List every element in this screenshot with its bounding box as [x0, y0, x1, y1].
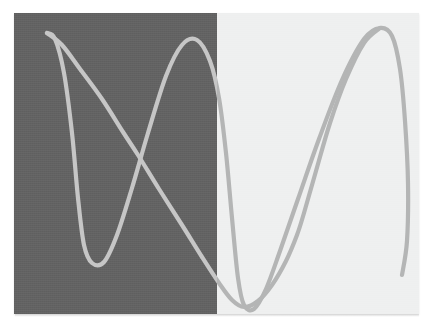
curve-wave-a-right-segment — [47, 28, 408, 310]
plot-drop-shadow — [15, 314, 419, 317]
figure-root — [0, 0, 432, 335]
plot-canvas — [14, 13, 419, 314]
curve-layer — [14, 13, 419, 314]
